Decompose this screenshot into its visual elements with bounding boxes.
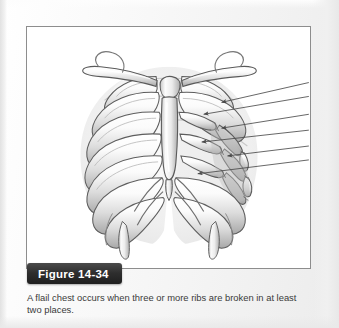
fracture-callout-1 bbox=[222, 83, 309, 103]
figure-number-banner: Figure 14-34 bbox=[27, 263, 122, 284]
page-edge-bottom bbox=[0, 316, 339, 328]
ribcage-illustration bbox=[27, 27, 310, 268]
page-edge-left bbox=[0, 0, 7, 328]
figure-number-label: Figure 14-34 bbox=[38, 268, 109, 280]
sternum-body bbox=[161, 97, 177, 180]
illustration-panel bbox=[26, 26, 311, 269]
page-edge-right bbox=[313, 0, 339, 328]
page-edge-top bbox=[0, 0, 339, 8]
manubrium bbox=[160, 76, 180, 98]
figure-caption: A flail chest occurs when three or more … bbox=[27, 292, 305, 317]
figure-page: Figure 14-34 A flail chest occurs when t… bbox=[0, 0, 339, 328]
